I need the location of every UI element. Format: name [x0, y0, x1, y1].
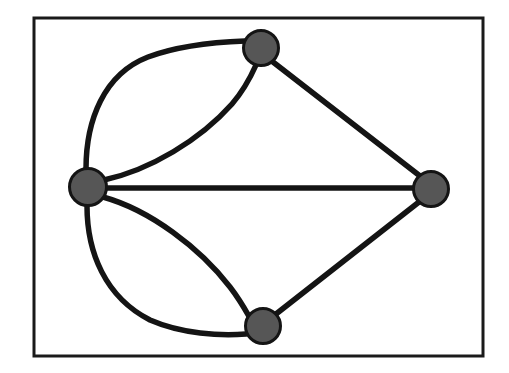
diagram-canvas	[0, 0, 509, 373]
node-circle-left	[70, 169, 107, 206]
graph-figure	[0, 0, 509, 373]
node-circle-top	[244, 31, 279, 66]
node-circle-bottom	[246, 309, 281, 344]
graph-node-left	[70, 169, 107, 206]
graph-node-top	[244, 31, 279, 66]
graph-node-right	[414, 172, 449, 207]
graph-node-bottom	[246, 309, 281, 344]
node-circle-right	[414, 172, 449, 207]
